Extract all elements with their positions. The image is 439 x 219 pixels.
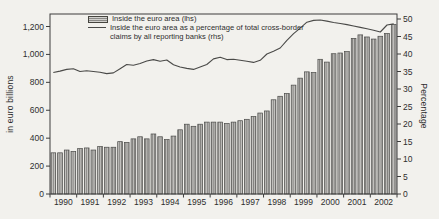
bar bbox=[378, 36, 383, 194]
bar bbox=[238, 121, 243, 194]
legend-line-swatch-icon bbox=[88, 27, 106, 28]
chart-panel: 02004006008001,0001,20005101520253035404… bbox=[0, 0, 439, 219]
x-axis-year-label: 1996 bbox=[214, 197, 233, 207]
bar bbox=[98, 147, 103, 194]
x-axis-year-label: 1992 bbox=[107, 197, 126, 207]
bar bbox=[331, 54, 336, 194]
left-axis-tick-label: 600 bbox=[30, 105, 44, 115]
x-axis-year-label: 1995 bbox=[187, 197, 206, 207]
bar bbox=[151, 134, 156, 194]
bar bbox=[118, 142, 123, 194]
bar bbox=[318, 59, 323, 194]
bar bbox=[144, 139, 149, 194]
legend-label: Inside the euro area (lhs) bbox=[112, 14, 196, 23]
legend: Inside the euro area (lhs) Inside the eu… bbox=[88, 14, 304, 41]
bar bbox=[178, 130, 183, 194]
x-axis-year-label: 2001 bbox=[348, 197, 367, 207]
legend-bar-swatch-icon bbox=[88, 16, 108, 23]
right-axis-tick-label: 15 bbox=[403, 137, 413, 147]
right-axis-tick-label: 30 bbox=[403, 84, 413, 94]
bar bbox=[131, 139, 136, 194]
bar bbox=[291, 85, 296, 194]
right-axis-tick-label: 5 bbox=[403, 172, 408, 182]
x-axis-year-label: 1998 bbox=[267, 197, 286, 207]
bar bbox=[71, 151, 76, 194]
bar bbox=[298, 78, 303, 194]
right-axis-tick-label: 50 bbox=[403, 14, 413, 24]
bar bbox=[184, 124, 189, 194]
bar bbox=[191, 126, 196, 194]
bar bbox=[91, 150, 96, 194]
x-axis-year-label: 1999 bbox=[294, 197, 313, 207]
bar bbox=[271, 100, 276, 194]
bar bbox=[78, 149, 83, 194]
bar bbox=[111, 147, 116, 194]
x-axis-year-label: 1993 bbox=[134, 197, 153, 207]
bar bbox=[218, 122, 223, 194]
x-axis-year-label: 1994 bbox=[161, 197, 180, 207]
right-axis-tick-label: 0 bbox=[403, 189, 408, 199]
left-axis-tick-label: 200 bbox=[30, 161, 44, 171]
bar bbox=[371, 39, 376, 194]
right-axis-tick-label: 25 bbox=[403, 102, 413, 112]
bar bbox=[51, 153, 56, 194]
x-axis-year-label: 2002 bbox=[374, 197, 393, 207]
legend-label-line2: claims by all reporting banks (rhs) bbox=[110, 32, 224, 41]
bar bbox=[345, 52, 350, 194]
legend-label-line1: Inside the euro area as a percentage of … bbox=[110, 23, 304, 32]
legend-entry-line: Inside the euro area as a percentage of … bbox=[88, 23, 304, 41]
bar bbox=[285, 94, 290, 195]
bar bbox=[365, 37, 370, 194]
left-axis-tick-label: 1,200 bbox=[23, 22, 45, 32]
bar bbox=[251, 117, 256, 194]
bar bbox=[325, 62, 330, 194]
bar bbox=[258, 113, 263, 194]
bar bbox=[338, 53, 343, 194]
bar bbox=[231, 122, 236, 194]
bar bbox=[164, 140, 169, 194]
bar bbox=[311, 73, 316, 194]
bar bbox=[211, 122, 216, 194]
x-axis-year-label: 1997 bbox=[241, 197, 260, 207]
bar bbox=[224, 124, 229, 194]
right-axis-tick-label: 20 bbox=[403, 119, 413, 129]
bar bbox=[305, 72, 310, 194]
bar bbox=[385, 33, 390, 194]
bar bbox=[198, 124, 203, 194]
bar bbox=[391, 24, 396, 194]
legend-entry-bars: Inside the euro area (lhs) bbox=[88, 14, 304, 23]
left-axis-tick-label: 400 bbox=[30, 133, 44, 143]
bar bbox=[171, 136, 176, 194]
left-axis-tick-label: 800 bbox=[30, 77, 44, 87]
left-axis-tick-label: 0 bbox=[39, 189, 44, 199]
bar bbox=[64, 150, 69, 194]
right-axis-tick-label: 35 bbox=[403, 67, 413, 77]
bar bbox=[204, 122, 209, 194]
x-axis-year-label: 1990 bbox=[54, 197, 73, 207]
bar bbox=[124, 142, 129, 194]
bar bbox=[104, 147, 109, 194]
bar bbox=[84, 148, 89, 194]
right-axis-tick-label: 45 bbox=[403, 32, 413, 42]
right-axis-tick-label: 10 bbox=[403, 154, 413, 164]
bar bbox=[138, 137, 143, 194]
bar bbox=[58, 153, 63, 194]
x-axis-year-label: 1991 bbox=[81, 197, 100, 207]
bar bbox=[245, 119, 250, 194]
bar bbox=[278, 96, 283, 194]
right-axis-title: Percentage bbox=[419, 83, 429, 128]
left-axis-tick-label: 1,000 bbox=[23, 49, 45, 59]
legend-label: Inside the euro area as a percentage of … bbox=[110, 23, 304, 41]
bar bbox=[351, 38, 356, 194]
bar bbox=[265, 111, 270, 194]
right-axis-tick-label: 40 bbox=[403, 49, 413, 59]
left-axis-title: in euro billions bbox=[5, 75, 15, 133]
bar bbox=[158, 137, 163, 194]
bar bbox=[358, 35, 363, 194]
x-axis-year-label: 2000 bbox=[321, 197, 340, 207]
